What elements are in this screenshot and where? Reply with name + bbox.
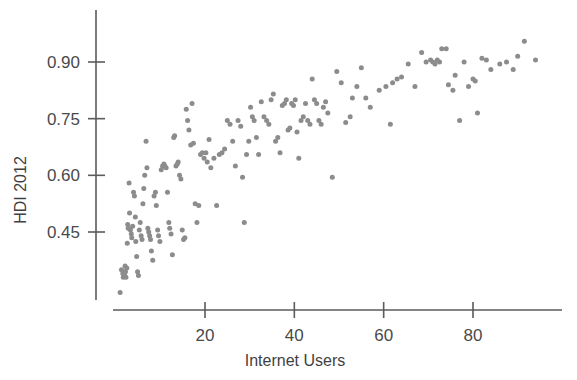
data-point xyxy=(395,77,400,82)
data-point xyxy=(230,139,235,144)
y-axis-title: HDI 2012 xyxy=(12,156,29,224)
data-point xyxy=(169,231,174,236)
data-point xyxy=(522,39,527,44)
data-point xyxy=(377,88,382,93)
data-point xyxy=(354,84,359,89)
data-point xyxy=(140,237,145,242)
data-point xyxy=(208,165,213,170)
data-point xyxy=(167,226,172,231)
x-axis-group: 20406080 Internet Users xyxy=(113,302,562,369)
data-point xyxy=(137,228,142,233)
data-point xyxy=(343,120,348,125)
data-point xyxy=(515,54,520,59)
data-point xyxy=(446,82,451,87)
data-point xyxy=(453,73,458,78)
data-point xyxy=(390,80,395,85)
data-point xyxy=(399,75,404,80)
data-point xyxy=(185,118,190,123)
data-point xyxy=(242,220,247,225)
data-point xyxy=(205,160,210,165)
x-axis-title: Internet Users xyxy=(245,352,345,369)
data-point xyxy=(127,180,132,185)
data-point xyxy=(244,152,249,157)
data-point xyxy=(142,173,147,178)
data-point xyxy=(533,58,538,63)
data-points-layer xyxy=(118,39,538,295)
data-point xyxy=(293,97,298,102)
data-point xyxy=(132,194,137,199)
data-point xyxy=(450,88,455,93)
data-point xyxy=(154,203,159,208)
data-point xyxy=(444,46,449,51)
data-point xyxy=(363,95,368,100)
data-point xyxy=(275,135,280,140)
data-point xyxy=(252,118,257,123)
data-point xyxy=(339,80,344,85)
data-point xyxy=(259,99,264,104)
data-point xyxy=(136,273,141,278)
data-point xyxy=(157,239,162,244)
data-point xyxy=(497,61,502,66)
data-point xyxy=(176,160,181,165)
data-point xyxy=(248,105,253,110)
data-point xyxy=(207,137,212,142)
data-point xyxy=(466,84,471,89)
data-point xyxy=(156,233,161,238)
data-point xyxy=(149,248,154,253)
x-tick-group: 20406080 xyxy=(196,302,483,345)
data-point xyxy=(172,133,177,138)
data-point xyxy=(488,67,493,72)
x-tick-label: 60 xyxy=(374,326,393,345)
data-point xyxy=(406,61,411,66)
data-point xyxy=(254,135,259,140)
data-point xyxy=(330,175,335,180)
data-point xyxy=(321,105,326,110)
data-point xyxy=(334,69,339,74)
data-point xyxy=(291,103,296,108)
data-point xyxy=(296,156,301,161)
data-point xyxy=(130,224,135,229)
data-point xyxy=(228,122,233,127)
data-point xyxy=(246,139,251,144)
data-point xyxy=(140,201,145,206)
data-point xyxy=(457,118,462,123)
data-point xyxy=(240,175,245,180)
y-tick-label: 0.60 xyxy=(47,166,80,185)
data-point xyxy=(511,67,516,72)
data-point xyxy=(287,126,292,131)
x-tick-label: 20 xyxy=(196,326,215,345)
data-point xyxy=(190,101,195,106)
data-point xyxy=(424,60,429,65)
data-point xyxy=(473,78,478,83)
data-point xyxy=(238,124,243,129)
data-point xyxy=(211,156,216,161)
data-point xyxy=(123,275,128,280)
data-point xyxy=(196,203,201,208)
data-point xyxy=(182,235,187,240)
data-point xyxy=(170,252,175,257)
data-point xyxy=(203,150,208,155)
data-point xyxy=(278,150,283,155)
data-point xyxy=(133,239,138,244)
data-point xyxy=(127,211,132,216)
data-point xyxy=(256,152,261,157)
data-point xyxy=(125,241,130,246)
data-point xyxy=(348,114,353,119)
data-point xyxy=(148,237,153,242)
data-point xyxy=(359,65,364,70)
data-point xyxy=(314,101,319,106)
data-point xyxy=(266,122,271,127)
data-point xyxy=(295,129,300,134)
data-point xyxy=(412,84,417,89)
data-point xyxy=(138,220,143,225)
data-point xyxy=(124,265,129,270)
y-tick-label: 0.90 xyxy=(47,53,80,72)
data-point xyxy=(184,107,189,112)
data-point xyxy=(325,111,330,116)
data-point xyxy=(133,214,138,219)
data-point xyxy=(462,60,467,65)
data-point xyxy=(350,95,355,100)
data-point xyxy=(129,235,134,240)
data-point xyxy=(191,141,196,146)
scatter-plot-figure: 0.450.600.750.90 HDI 2012 20406080 Inter… xyxy=(0,0,577,380)
